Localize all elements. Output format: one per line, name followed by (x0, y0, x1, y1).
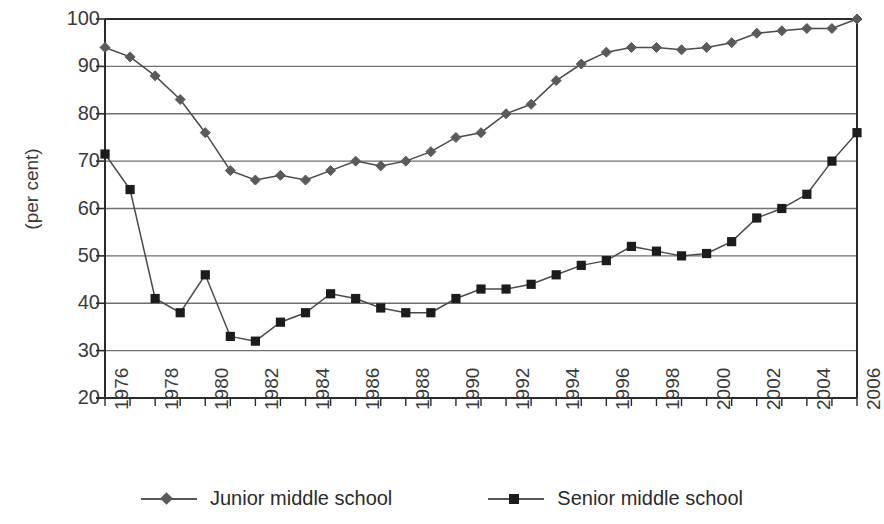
data-point-marker (627, 242, 636, 251)
data-point-marker (250, 175, 260, 185)
data-point-marker (100, 42, 110, 52)
x-axis-tick-label: 1990 (463, 368, 482, 410)
x-axis-tick-label: 1994 (563, 368, 582, 410)
data-point-marker (401, 156, 411, 166)
x-axis-tick-label: 1986 (363, 368, 382, 410)
data-point-marker (225, 166, 235, 176)
x-axis-tick-label: 2000 (714, 368, 733, 410)
data-point-marker (426, 308, 435, 317)
x-axis-tick-label: 2002 (764, 368, 783, 410)
chart-legend: Junior middle school Senior middle schoo… (0, 487, 884, 510)
x-axis-tick-label: 2004 (814, 368, 833, 410)
data-point-marker (727, 38, 737, 48)
series-line (105, 19, 857, 180)
data-point-marker (376, 161, 386, 171)
data-point-marker (702, 42, 712, 52)
data-point-marker (651, 42, 661, 52)
data-point-marker (777, 26, 787, 36)
data-point-marker (201, 270, 210, 279)
legend-item-senior[interactable]: Senior middle school (488, 487, 743, 510)
square-marker-icon (488, 492, 544, 506)
data-point-marker (376, 303, 385, 312)
data-point-marker (451, 132, 461, 142)
x-axis-tick-label: 1992 (513, 368, 532, 410)
data-point-marker (677, 251, 686, 260)
plot-area (0, 0, 884, 524)
data-point-marker (827, 23, 837, 33)
data-point-marker (752, 28, 762, 38)
data-point-marker (727, 237, 736, 246)
data-point-marker (326, 289, 335, 298)
data-point-marker (275, 170, 285, 180)
series-junior-middle-school (100, 14, 862, 185)
data-point-marker (601, 47, 611, 57)
data-point-marker (351, 294, 360, 303)
data-point-marker (602, 256, 611, 265)
data-point-marker (451, 294, 460, 303)
x-axis-tick-label: 1978 (162, 368, 181, 410)
data-point-marker (125, 185, 134, 194)
data-point-marker (777, 204, 786, 213)
x-axis-tick-label: 1982 (262, 368, 281, 410)
data-point-marker (301, 175, 311, 185)
x-axis-tick-label: 1976 (112, 368, 131, 410)
chart-container: (per cent) 1009080706050403020 197619781… (0, 0, 884, 524)
data-point-marker (401, 308, 410, 317)
data-point-marker (501, 284, 510, 293)
data-point-marker (852, 128, 861, 137)
data-point-marker (176, 308, 185, 317)
x-axis-tick-label: 1984 (313, 368, 332, 410)
data-point-marker (276, 318, 285, 327)
x-axis-tick-label: 1996 (613, 368, 632, 410)
data-point-marker (100, 149, 109, 158)
data-point-marker (326, 166, 336, 176)
data-point-marker (802, 23, 812, 33)
data-point-marker (626, 42, 636, 52)
x-axis-tick-label: 2006 (864, 368, 883, 410)
data-point-marker (226, 332, 235, 341)
x-axis-tick-label: 1988 (413, 368, 432, 410)
data-point-marker (476, 284, 485, 293)
legend-item-junior[interactable]: Junior middle school (141, 487, 392, 510)
data-point-marker (251, 337, 260, 346)
data-point-marker (702, 249, 711, 258)
data-point-marker (677, 45, 687, 55)
data-point-marker (652, 247, 661, 256)
series-line (105, 133, 857, 341)
legend-label-junior: Junior middle school (210, 487, 392, 510)
data-point-marker (151, 294, 160, 303)
data-point-marker (351, 156, 361, 166)
data-point-marker (301, 308, 310, 317)
data-point-marker (852, 14, 862, 24)
x-axis-tick-label: 1998 (663, 368, 682, 410)
data-point-marker (527, 280, 536, 289)
data-point-marker (802, 190, 811, 199)
diamond-marker-icon (141, 492, 197, 506)
data-point-marker (827, 157, 836, 166)
data-point-marker (552, 270, 561, 279)
data-point-marker (576, 59, 586, 69)
data-point-marker (426, 147, 436, 157)
legend-label-senior: Senior middle school (557, 487, 743, 510)
data-point-marker (752, 213, 761, 222)
data-point-marker (577, 261, 586, 270)
x-axis-tick-label: 1980 (212, 368, 231, 410)
